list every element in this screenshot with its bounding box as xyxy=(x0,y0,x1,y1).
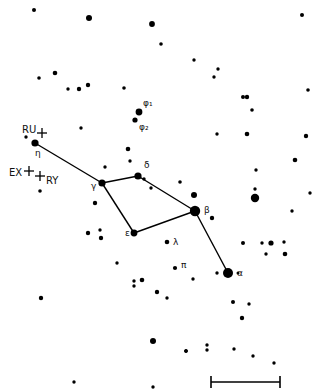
field-star xyxy=(251,194,259,202)
field-star xyxy=(38,189,42,193)
field-star xyxy=(128,159,131,162)
star-label-delta: δ xyxy=(144,160,150,170)
field-star xyxy=(98,228,101,231)
field-star xyxy=(191,277,194,280)
field-star xyxy=(24,135,27,138)
field-star xyxy=(210,216,214,220)
field-star xyxy=(191,192,197,198)
field-star xyxy=(53,71,58,76)
field-star xyxy=(205,343,208,346)
field-star xyxy=(254,168,257,171)
field-star xyxy=(215,271,218,274)
star-label-phi1: φ₁ xyxy=(143,98,153,108)
variable-label-ex: EX xyxy=(9,167,22,178)
star-label-beta: β xyxy=(204,205,210,215)
field-star xyxy=(115,261,118,264)
star-label-pi: π xyxy=(181,260,187,270)
field-star xyxy=(251,354,254,357)
field-star xyxy=(132,284,135,287)
field-star xyxy=(215,132,218,135)
star-delta xyxy=(134,172,141,179)
star-pi xyxy=(173,266,177,270)
field-star xyxy=(150,338,156,344)
field-star xyxy=(272,361,275,364)
field-star xyxy=(86,231,90,235)
field-star xyxy=(39,296,43,300)
field-star xyxy=(165,296,168,299)
field-star xyxy=(290,209,293,212)
field-star xyxy=(149,186,152,189)
field-star xyxy=(79,126,82,129)
field-star xyxy=(247,302,250,305)
field-star xyxy=(245,132,250,137)
field-star xyxy=(72,380,75,383)
field-star xyxy=(293,158,298,163)
field-star xyxy=(86,83,90,87)
field-star xyxy=(192,58,195,61)
field-star xyxy=(308,191,311,194)
star-phi2 xyxy=(132,117,137,122)
star-epsilon xyxy=(131,230,138,237)
field-star xyxy=(300,13,304,17)
field-star xyxy=(260,241,263,244)
chart-background xyxy=(0,0,328,392)
variable-label-ry: RY xyxy=(46,175,59,186)
field-star xyxy=(184,349,187,352)
field-star xyxy=(132,279,135,282)
field-star xyxy=(216,67,219,70)
field-star xyxy=(126,147,131,152)
star-label-gamma: γ xyxy=(91,181,97,191)
field-star xyxy=(77,87,81,91)
star-chart: ηγδβελπαφ₁φ₂ RUEXRY xyxy=(0,0,328,392)
field-star xyxy=(250,108,254,112)
star-eta xyxy=(31,139,38,146)
field-star xyxy=(86,15,92,21)
field-star xyxy=(205,348,208,351)
star-label-alpha: α xyxy=(237,268,243,278)
field-star xyxy=(37,76,41,80)
field-star xyxy=(140,278,145,283)
field-star xyxy=(155,290,159,294)
star-beta xyxy=(190,206,200,216)
star-label-eta: η xyxy=(35,148,41,158)
field-star xyxy=(282,240,285,243)
field-star xyxy=(304,134,308,138)
field-star xyxy=(241,241,245,245)
field-star xyxy=(231,300,235,304)
field-star xyxy=(232,347,235,350)
field-star xyxy=(103,165,106,168)
field-star xyxy=(99,236,103,240)
field-star xyxy=(93,201,97,205)
star-label-epsilon: ε xyxy=(125,228,130,238)
field-star xyxy=(159,42,163,46)
field-star xyxy=(151,385,154,388)
star-alpha xyxy=(223,268,233,278)
field-star xyxy=(283,252,288,257)
field-star xyxy=(264,252,267,255)
star-label-lambda: λ xyxy=(173,237,179,247)
field-star xyxy=(240,316,244,320)
field-star xyxy=(149,21,155,27)
field-star xyxy=(253,187,256,190)
star-label-phi2: φ₂ xyxy=(139,122,149,132)
field-star xyxy=(66,87,69,90)
star-lambda xyxy=(165,240,170,245)
field-star xyxy=(306,88,310,92)
field-star xyxy=(122,86,126,90)
field-star xyxy=(268,240,273,245)
field-star xyxy=(32,8,36,12)
field-star xyxy=(245,95,249,99)
field-star xyxy=(212,75,215,78)
field-star xyxy=(142,177,145,180)
variable-label-ru: RU xyxy=(22,124,36,135)
star-gamma xyxy=(98,179,105,186)
field-star xyxy=(178,180,182,184)
field-star xyxy=(241,95,245,99)
star-phi1 xyxy=(136,109,143,116)
